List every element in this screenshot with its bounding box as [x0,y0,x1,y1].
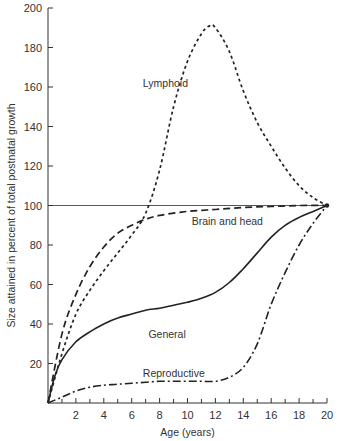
x-tick-label: 6 [129,409,135,421]
x-tick-label: 14 [237,409,249,421]
series-label-lymphoid: Lymphoid [143,77,188,89]
x-axis: 2468101214161820 [48,398,333,421]
y-tick-label: 40 [30,318,42,330]
y-axis: 20406080100120140160180200 [24,2,53,403]
convergence-point [325,203,329,207]
x-tick-label: 8 [157,409,163,421]
y-tick-label: 200 [24,2,42,14]
x-tick-label: 12 [209,409,221,421]
x-tick-label: 16 [265,409,277,421]
y-axis-title: Size attained in percent of total postna… [5,103,17,327]
x-tick-label: 2 [73,409,79,421]
y-tick-label: 100 [24,200,42,212]
x-axis-title: Age (years) [160,426,214,438]
y-tick-label: 20 [30,358,42,370]
series-label-general: General [148,328,185,340]
series-label-reproductive: Reproductive [143,367,205,379]
x-tick-label: 4 [101,409,107,421]
x-tick-label: 10 [181,409,193,421]
growth-curves-chart: 20406080100120140160180200 2468101214161… [0,0,340,441]
y-tick-label: 60 [30,279,42,291]
y-tick-label: 140 [24,121,42,133]
series-label-brain-and-head: Brain and head [192,215,263,227]
y-tick-label: 80 [30,239,42,251]
y-tick-label: 160 [24,81,42,93]
series-labels: LymphoidBrain and headGeneralReproductiv… [143,77,263,379]
series-layer [48,25,329,403]
x-tick-label: 20 [321,409,333,421]
y-tick-label: 180 [24,42,42,54]
x-tick-label: 18 [293,409,305,421]
y-tick-label: 120 [24,160,42,172]
